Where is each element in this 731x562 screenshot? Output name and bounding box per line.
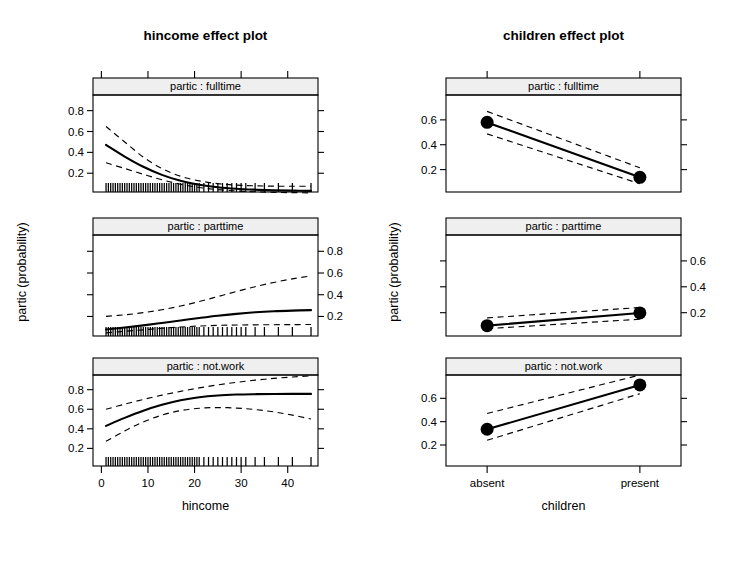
y-axis-label: partic (probability) bbox=[15, 222, 29, 321]
y-tick-label-2-0: 0.2 bbox=[421, 439, 437, 451]
y-tick-label-2-0: 0.2 bbox=[68, 442, 84, 454]
x-tick-label-1: present bbox=[621, 477, 660, 489]
y-tick-label-0-2: 0.6 bbox=[68, 126, 84, 138]
x-tick-label-4: 40 bbox=[281, 477, 294, 489]
y-tick-label-2-3: 0.8 bbox=[68, 384, 84, 396]
y-tick-label-1-0: 0.2 bbox=[690, 307, 706, 319]
panel-frame-1 bbox=[93, 235, 318, 336]
plot-title: children effect plot bbox=[503, 28, 624, 43]
y-tick-label-0-1: 0.4 bbox=[421, 139, 438, 151]
y-tick-label-0-0: 0.2 bbox=[68, 167, 84, 179]
y-tick-label-1-2: 0.6 bbox=[690, 255, 706, 267]
fit-line-1 bbox=[106, 310, 311, 329]
x-tick-label-0: 0 bbox=[98, 477, 104, 489]
y-tick-label-2-1: 0.4 bbox=[68, 423, 85, 435]
y-tick-label-1-3: 0.8 bbox=[327, 245, 343, 257]
panel-frame-2 bbox=[446, 375, 681, 466]
x-axis-label: hincome bbox=[182, 499, 229, 513]
lower-band-2 bbox=[487, 394, 640, 441]
panel-frame-1 bbox=[446, 235, 681, 336]
panel-strip-label-2: partic : not.work bbox=[525, 360, 603, 372]
y-tick-label-2-1: 0.4 bbox=[421, 416, 438, 428]
data-point-2-1 bbox=[633, 378, 646, 391]
y-tick-label-0-1: 0.4 bbox=[68, 146, 85, 158]
y-tick-label-1-1: 0.4 bbox=[327, 289, 344, 301]
y-tick-label-0-3: 0.8 bbox=[68, 105, 84, 117]
y-tick-label-1-2: 0.6 bbox=[327, 267, 343, 279]
y-axis-label: partic (probability) bbox=[387, 222, 401, 321]
x-tick-label-1: 10 bbox=[142, 477, 155, 489]
y-tick-label-0-2: 0.6 bbox=[421, 114, 437, 126]
fit-line-2 bbox=[487, 385, 640, 429]
x-tick-label-3: 30 bbox=[235, 477, 248, 489]
upper-band-0 bbox=[106, 127, 311, 187]
effect-plots-figure: hincome effect plotpartic (probability)h… bbox=[0, 0, 731, 562]
data-point-0-0 bbox=[481, 116, 494, 129]
x-tick-label-0: absent bbox=[470, 477, 505, 489]
panel-frame-2 bbox=[93, 375, 318, 466]
y-tick-label-1-0: 0.2 bbox=[327, 310, 343, 322]
fit-line-2 bbox=[106, 394, 311, 426]
x-axis-label: children bbox=[542, 499, 586, 513]
panel-strip-label-2: partic : not.work bbox=[167, 360, 245, 372]
panel-strip-label-0: partic : fulltime bbox=[528, 80, 599, 92]
y-tick-label-0-0: 0.2 bbox=[421, 164, 437, 176]
x-tick-label-2: 20 bbox=[188, 477, 201, 489]
panel-strip-label-1: partic : parttime bbox=[526, 220, 602, 232]
y-tick-label-2-2: 0.6 bbox=[68, 403, 84, 415]
data-point-1-0 bbox=[481, 319, 494, 332]
fit-line-0 bbox=[487, 122, 640, 177]
plot-title: hincome effect plot bbox=[144, 28, 268, 43]
upper-band-2 bbox=[106, 376, 311, 409]
panel-strip-label-1: partic : parttime bbox=[168, 220, 244, 232]
upper-band-0 bbox=[487, 111, 640, 167]
data-point-0-1 bbox=[633, 171, 646, 184]
y-tick-label-2-2: 0.6 bbox=[421, 392, 437, 404]
data-point-1-1 bbox=[633, 306, 646, 319]
panel-strip-label-0: partic : fulltime bbox=[170, 80, 241, 92]
figure-canvas: hincome effect plotpartic (probability)h… bbox=[0, 0, 731, 562]
upper-band-1 bbox=[487, 308, 640, 318]
y-tick-label-1-1: 0.4 bbox=[690, 281, 707, 293]
data-point-2-0 bbox=[481, 423, 494, 436]
